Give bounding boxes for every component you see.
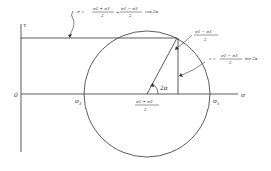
sigma-equation-term1-num: σ1 + σ3 bbox=[93, 6, 110, 11]
tau-leader bbox=[182, 62, 205, 75]
sigma1-label: σ1 bbox=[213, 97, 220, 106]
center-label-numerator: σ1 + σ3 bbox=[136, 99, 153, 104]
sigma-equation-term1-den: 2 bbox=[100, 13, 104, 18]
radius-label-denominator: 2 bbox=[203, 37, 207, 42]
sigma-equation-leader bbox=[70, 11, 74, 35]
sigma-equation-term2-num: σ1 − σ3 bbox=[121, 6, 138, 11]
tau-equation-num: σ1 − σ3 bbox=[221, 53, 238, 58]
tau-equation-lhs: τ = bbox=[209, 56, 216, 61]
tau-axis-label: τ bbox=[23, 21, 27, 28]
angle-arrowhead bbox=[150, 83, 154, 87]
sigma-equation-plus: + bbox=[116, 10, 119, 15]
origin-label: 0 bbox=[14, 91, 18, 98]
radius-leader bbox=[177, 35, 192, 48]
sigma-axis-label: σ bbox=[241, 91, 246, 98]
sigma-leader-arrowhead bbox=[68, 34, 72, 38]
sigma-equation-term2-den: 2 bbox=[128, 13, 132, 18]
tau-equation-trig: sin 2α bbox=[245, 56, 258, 61]
center-label-denominator: 2 bbox=[143, 107, 147, 112]
tau-equation-den: 2 bbox=[228, 60, 232, 65]
sigma-equation-lhs: σ = bbox=[77, 9, 84, 14]
radius-label-numerator: σ1 − σ3 bbox=[195, 29, 212, 34]
sigma3-label: σ3 bbox=[75, 97, 82, 106]
mohr-circle-diagram: τ σ 0 σ3 σ1 σ1 + σ3 2 2α σ1 − σ3 2 σ = σ… bbox=[0, 0, 271, 171]
angle-label: 2α bbox=[159, 84, 168, 91]
sigma-equation-trig: cos 2α bbox=[145, 9, 159, 14]
